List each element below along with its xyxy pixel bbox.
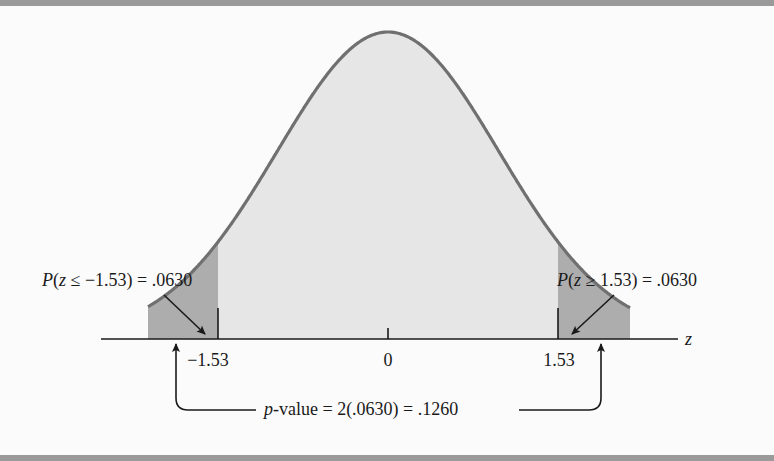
pvalue-label: p-value = 2(.0630) = .1260 xyxy=(264,400,458,418)
right-prob-text: ≥ 1.53) = .0630 xyxy=(581,270,697,290)
left-prob-text: ≤ −1.53) = .0630 xyxy=(66,270,192,290)
z-variable: z xyxy=(59,270,66,290)
tick-label-zero: 0 xyxy=(384,351,393,369)
tick-label-1-53: 1.53 xyxy=(543,351,575,369)
prob-symbol: P xyxy=(42,270,53,290)
normal-curve-figure xyxy=(0,0,774,461)
curve-body-fill xyxy=(148,32,630,339)
z-variable: z xyxy=(574,270,581,290)
z-axis-variable: z xyxy=(685,329,692,349)
p-variable: p xyxy=(264,399,273,419)
tick-label-neg-1-53: −1.53 xyxy=(187,351,229,369)
pvalue-text: -value = 2(.0630) = .1260 xyxy=(273,399,458,419)
prob-symbol: P xyxy=(557,270,568,290)
z-axis-label: z xyxy=(685,330,692,348)
left-tail-probability-label: P(z ≤ −1.53) = .0630 xyxy=(42,271,192,289)
right-tail-probability-label: P(z ≥ 1.53) = .0630 xyxy=(557,271,697,289)
